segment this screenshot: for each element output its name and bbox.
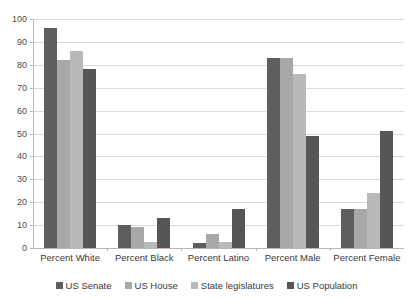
legend-swatch-icon: [56, 282, 63, 289]
bar: [206, 234, 219, 248]
bar: [354, 209, 367, 248]
plot-area: 0102030405060708090100: [33, 19, 404, 248]
bar: [367, 193, 380, 248]
legend-swatch-icon: [191, 282, 198, 289]
legend-label: US Senate: [66, 281, 112, 291]
bar: [157, 218, 170, 248]
bar: [380, 131, 393, 248]
y-axis-tick-label: 90: [17, 37, 27, 46]
bar: [293, 74, 306, 248]
legend-item[interactable]: US Senate: [56, 281, 112, 291]
x-axis-tick-label: Percent Black: [107, 253, 181, 263]
y-axis-tick-label: 0: [22, 244, 27, 253]
bar-group: [256, 19, 330, 248]
y-axis-tick-label: 100: [12, 15, 27, 24]
bar: [219, 242, 232, 248]
bar: [232, 209, 245, 248]
x-axis-tick-label: Percent Female: [330, 253, 404, 263]
bar: [83, 69, 96, 248]
legend-item[interactable]: US Population: [287, 281, 358, 291]
x-axis-tick-label: Percent White: [33, 253, 107, 263]
chart-legend: US SenateUS HouseState legislaturesUS Po…: [0, 281, 413, 291]
x-axis-tick-label: Percent Male: [256, 253, 330, 263]
bar: [70, 51, 83, 248]
y-axis-tick-label: 60: [17, 106, 27, 115]
y-axis-tick-label: 20: [17, 198, 27, 207]
legend-item[interactable]: State legislatures: [191, 281, 274, 291]
bar-chart: 0102030405060708090100 Percent WhitePerc…: [0, 0, 413, 303]
legend-label: State legislatures: [201, 281, 274, 291]
grid-line: [33, 248, 404, 249]
legend-swatch-icon: [287, 282, 294, 289]
bar: [57, 60, 70, 248]
x-axis-tick-label: Percent Latino: [181, 253, 255, 263]
legend-label: US House: [135, 281, 178, 291]
bar-group: [107, 19, 181, 248]
bar: [280, 58, 293, 248]
y-axis-tick: [30, 248, 33, 249]
y-axis-tick-label: 70: [17, 83, 27, 92]
y-axis-tick-label: 10: [17, 221, 27, 230]
bar: [306, 136, 319, 248]
legend-item[interactable]: US House: [125, 281, 178, 291]
bar: [341, 209, 354, 248]
y-axis-tick-label: 40: [17, 152, 27, 161]
bar-groups: [33, 19, 404, 248]
x-axis-tick: [256, 248, 257, 251]
y-axis-tick-label: 30: [17, 175, 27, 184]
legend-label: US Population: [297, 281, 358, 291]
bar: [131, 227, 144, 248]
bar: [44, 28, 57, 248]
legend-swatch-icon: [125, 282, 132, 289]
bar-group: [330, 19, 404, 248]
bar: [193, 243, 206, 248]
x-axis-tick: [330, 248, 331, 251]
bar: [118, 225, 131, 248]
x-axis-tick: [107, 248, 108, 251]
bar-group: [181, 19, 255, 248]
bar-group: [33, 19, 107, 248]
y-axis-tick-label: 50: [17, 129, 27, 138]
bar: [144, 242, 157, 248]
x-axis-tick: [181, 248, 182, 251]
bar: [267, 58, 280, 248]
y-axis-tick-label: 80: [17, 60, 27, 69]
